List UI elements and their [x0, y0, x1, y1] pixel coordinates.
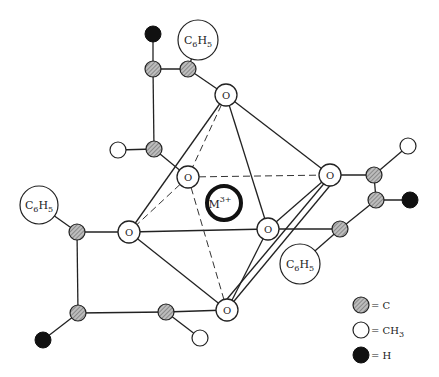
oxygen-top: O: [215, 84, 237, 106]
svg-text:= H: = H: [371, 350, 392, 361]
svg-text:O: O: [125, 227, 133, 238]
svg-text:O: O: [326, 170, 334, 181]
metal-center: M3+: [207, 186, 241, 220]
legend-item-methyl: = CH3: [353, 322, 404, 339]
oxygen-back: O: [177, 166, 199, 188]
svg-text:O: O: [184, 172, 192, 183]
ligand-right: [268, 146, 410, 264]
svg-text:= CH3: = CH3: [371, 325, 404, 339]
oxygen-left: O: [118, 221, 140, 243]
phenyl-group-right: C6H5: [280, 244, 320, 284]
legend: = C = CH3 = H: [353, 297, 404, 363]
octahedral-complex-diagram: C6H5 C6H5 C6H5 O O O O O O M3+ =: [0, 0, 439, 377]
phenyl-group-left: C6H5: [20, 186, 58, 224]
svg-text:O: O: [223, 305, 231, 316]
legend-item-hydrogen: = H: [353, 347, 392, 363]
svg-text:O: O: [222, 90, 230, 101]
legend-item-carbon: = C: [353, 297, 391, 313]
svg-text:= C: = C: [371, 300, 391, 311]
oxygen-front: O: [257, 218, 279, 240]
svg-text:O: O: [264, 224, 272, 235]
phenyl-group-top: C6H5: [178, 20, 218, 60]
oxygen-bottom: O: [216, 299, 238, 321]
oxygen-right: O: [319, 164, 341, 186]
